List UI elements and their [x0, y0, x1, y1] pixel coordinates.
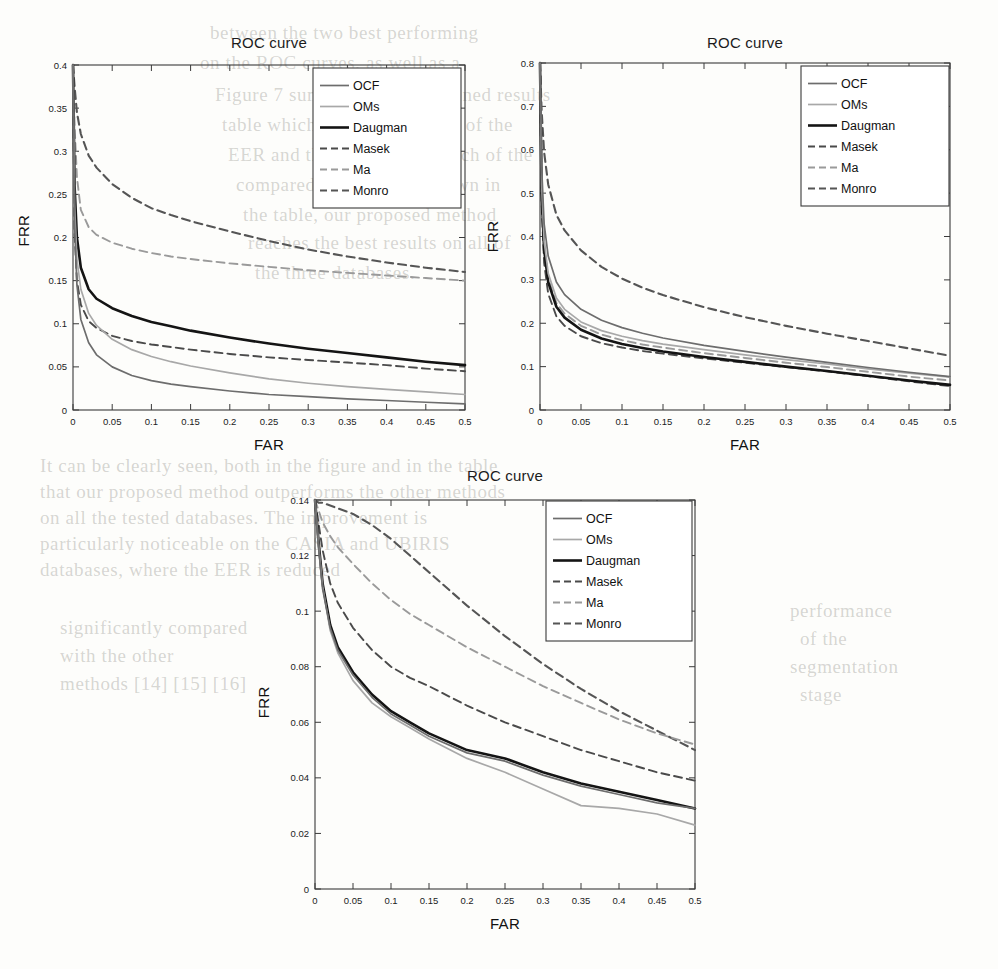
y-tick-label: 0	[529, 405, 534, 416]
legend-label-ocf: OCF	[586, 512, 613, 526]
x-tick-label: 0.15	[654, 416, 673, 427]
roc-chart-top-left: 00.050.10.150.20.250.30.350.40.450.500.0…	[0, 18, 500, 458]
y-tick-label: 0.5	[521, 188, 534, 199]
x-tick-label: 0.5	[458, 416, 471, 427]
y-tick-label: 0.14	[291, 495, 310, 506]
x-tick-label: 0	[70, 416, 75, 427]
y-tick-label: 0.12	[291, 550, 310, 561]
x-tick-label: 0.1	[145, 416, 158, 427]
x-tick-label: 0.1	[615, 416, 628, 427]
legend-label-daugman: Daugman	[841, 119, 895, 133]
y-tick-label: 0.1	[296, 606, 309, 617]
x-tick-label: 0.45	[900, 416, 919, 427]
x-tick-label: 0.1	[384, 895, 397, 906]
y-axis-label: FRR	[484, 221, 501, 253]
y-tick-label: 0.02	[291, 828, 310, 839]
y-tick-label: 0.2	[54, 232, 67, 243]
bleed-line: segmentation	[790, 656, 899, 678]
y-tick-label: 0.6	[521, 144, 534, 155]
legend-label-masek: Masek	[586, 575, 624, 589]
bleed-line: methods [14] [15] [16]	[60, 673, 247, 695]
legend-label-daugman: Daugman	[353, 121, 407, 135]
panel-title-top-right: ROC curve	[540, 34, 950, 51]
x-tick-label: 0.45	[417, 416, 436, 427]
y-tick-label: 0.7	[521, 101, 534, 112]
y-tick-label: 0.15	[49, 275, 68, 286]
x-tick-label: 0.05	[572, 416, 591, 427]
legend-label-ma: Ma	[353, 163, 370, 177]
x-tick-label: 0.5	[688, 895, 701, 906]
y-tick-label: 0.25	[49, 189, 68, 200]
legend-label-monro: Monro	[586, 617, 621, 631]
legend-label-ma: Ma	[586, 596, 603, 610]
x-axis-label: FAR	[254, 436, 284, 453]
panel-title-bottom: ROC curve	[315, 467, 695, 484]
x-tick-label: 0.15	[181, 416, 200, 427]
legend-label-oms: OMs	[353, 100, 379, 114]
roc-chart-top-right: 00.050.10.150.20.250.30.350.40.450.500.1…	[498, 18, 998, 458]
x-tick-label: 0.4	[861, 416, 874, 427]
x-tick-label: 0.3	[779, 416, 792, 427]
bleed-line: of the	[800, 628, 847, 650]
bleed-line: performance	[790, 600, 893, 622]
y-axis-label: FRR	[15, 215, 32, 247]
x-tick-label: 0.45	[648, 895, 667, 906]
x-tick-label: 0.25	[260, 416, 279, 427]
x-tick-label: 0.35	[572, 895, 591, 906]
y-tick-label: 0.1	[521, 361, 534, 372]
panel-title-top-left: ROC curve	[73, 34, 465, 51]
x-axis-label: FAR	[730, 436, 760, 453]
x-tick-label: 0.25	[736, 416, 755, 427]
x-tick-label: 0.4	[612, 895, 625, 906]
x-tick-label: 0.3	[302, 416, 315, 427]
y-tick-label: 0.2	[521, 318, 534, 329]
roc-panel-top-right: ROC curve 00.050.10.150.20.250.30.350.40…	[498, 18, 998, 458]
roc-panel-top-left: ROC curve 00.050.10.150.20.250.30.350.40…	[0, 18, 500, 458]
y-tick-label: 0.08	[291, 661, 310, 672]
legend-label-oms: OMs	[586, 533, 612, 547]
y-tick-label: 0.4	[54, 60, 67, 71]
bleed-line: stage	[800, 684, 842, 706]
x-tick-label: 0.05	[103, 416, 122, 427]
legend-label-daugman: Daugman	[586, 554, 640, 568]
x-tick-label: 0.15	[420, 895, 439, 906]
y-tick-label: 0.8	[521, 58, 534, 69]
legend-label-masek: Masek	[353, 142, 391, 156]
roc-panel-bottom: ROC curve 00.050.10.150.20.250.30.350.40…	[240, 455, 760, 969]
x-tick-label: 0.2	[697, 416, 710, 427]
legend-label-masek: Masek	[841, 140, 879, 154]
legend-label-ocf: OCF	[841, 77, 868, 91]
x-tick-label: 0.35	[818, 416, 837, 427]
x-tick-label: 0.2	[223, 416, 236, 427]
x-tick-label: 0	[537, 416, 542, 427]
y-tick-label: 0.06	[291, 717, 310, 728]
x-tick-label: 0.5	[943, 416, 956, 427]
x-tick-label: 0.25	[496, 895, 515, 906]
x-tick-label: 0.2	[460, 895, 473, 906]
x-tick-label: 0	[312, 895, 317, 906]
legend-label-monro: Monro	[353, 184, 388, 198]
roc-chart-bottom: 00.050.10.150.20.250.30.350.40.450.500.0…	[240, 455, 760, 969]
y-tick-label: 0.4	[521, 231, 534, 242]
y-tick-label: 0.35	[49, 103, 68, 114]
y-tick-label: 0	[304, 884, 309, 895]
x-tick-label: 0.35	[338, 416, 357, 427]
y-tick-label: 0.04	[291, 772, 310, 783]
legend-label-ocf: OCF	[353, 79, 380, 93]
legend-label-ma: Ma	[841, 161, 858, 175]
x-tick-label: 0.3	[536, 895, 549, 906]
legend-label-oms: OMs	[841, 98, 867, 112]
x-tick-label: 0.4	[380, 416, 393, 427]
bleed-line: with the other	[60, 645, 174, 667]
bleed-line: significantly compared	[60, 617, 248, 639]
y-tick-label: 0.1	[54, 318, 67, 329]
legend-label-monro: Monro	[841, 182, 876, 196]
y-tick-label: 0	[62, 405, 67, 416]
y-axis-label: FRR	[255, 686, 272, 718]
y-tick-label: 0.3	[521, 274, 534, 285]
y-tick-label: 0.05	[49, 361, 68, 372]
x-tick-label: 0.05	[344, 895, 363, 906]
y-tick-label: 0.3	[54, 146, 67, 157]
x-axis-label: FAR	[490, 915, 520, 932]
